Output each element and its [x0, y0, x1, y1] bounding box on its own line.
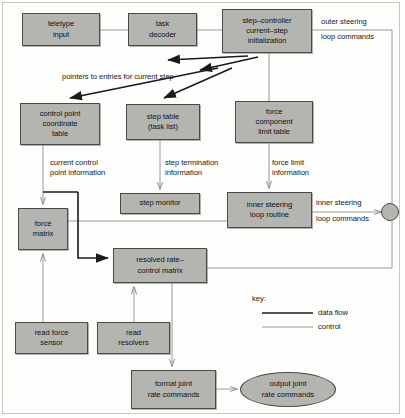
signal-junction-node[interactable]: [381, 203, 399, 221]
label-current-control-point-info: current control point information: [50, 158, 105, 178]
node-read-resolvers[interactable]: read resolvers: [97, 322, 170, 354]
key-label-control: control: [318, 322, 340, 332]
node-resolved-rate-matrix[interactable]: resolved rate– control matrix: [113, 248, 207, 283]
label-pointers-to-entries: pointers to entries for current step: [62, 72, 174, 82]
label-step-termination-info: step termination information: [165, 158, 218, 178]
node-force-matrix[interactable]: force matrix: [18, 208, 68, 250]
node-step-table[interactable]: step table (task list): [126, 104, 200, 140]
node-read-force-sensor[interactable]: read force sensor: [15, 322, 88, 354]
node-format-joint-rate[interactable]: format joint rate commands: [131, 370, 216, 409]
label-outer-steering-line2: loop commands: [321, 32, 374, 42]
label-inner-steering-line2: loop commands: [316, 214, 369, 224]
key-title: key:: [252, 294, 266, 303]
node-task-decoder[interactable]: task decoder: [128, 13, 197, 46]
node-teletype-input[interactable]: teletype input: [22, 13, 100, 46]
node-inner-steering-loop[interactable]: inner steering loop routine: [227, 192, 312, 228]
key-label-data-flow: data flow: [318, 308, 348, 318]
node-output-joint-rate[interactable]: output joint rate commands: [240, 372, 336, 407]
label-outer-steering-line1: outer steering: [321, 17, 367, 27]
node-step-controller[interactable]: step–controller current–step initializat…: [222, 9, 312, 53]
node-force-limit-table[interactable]: force component limit table: [235, 101, 313, 143]
diagram-canvas: teletype input task decoder step–control…: [0, 0, 405, 418]
label-inner-steering-line1: inner steering: [316, 198, 361, 208]
node-step-monitor[interactable]: step monitor: [120, 193, 200, 214]
label-force-limit-info: force limit information: [272, 158, 309, 178]
node-control-point-table[interactable]: control point coordinate table: [20, 103, 100, 145]
